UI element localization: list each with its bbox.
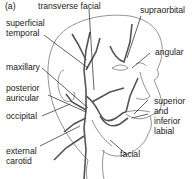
label-occipital: occipital (6, 112, 37, 122)
head-outline (48, 15, 162, 179)
panel-label: (a) (5, 2, 16, 12)
label-superior-inferior-labial-line4: labial (154, 127, 174, 137)
label-maxillary: maxillary (6, 63, 40, 73)
label-external-carotid-line2: carotid (6, 157, 32, 167)
label-superficial-temporal-line2: temporal (6, 29, 39, 39)
label-transverse-facial: transverse facial (38, 2, 101, 12)
label-supraorbital: supraorbital (140, 6, 185, 16)
leader-lines (40, 9, 150, 154)
label-angular: angular (155, 48, 184, 58)
label-facial: facial (120, 150, 140, 160)
label-posterior-auricular-line2: auricular (6, 94, 39, 104)
